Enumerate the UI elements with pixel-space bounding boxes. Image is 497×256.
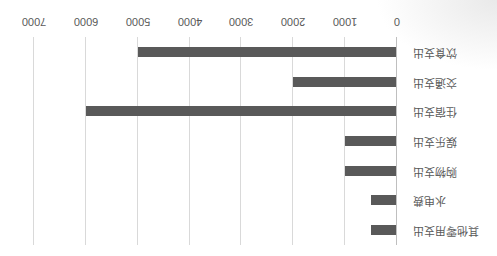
x-tick-label: 2000 <box>273 16 313 28</box>
gridline <box>189 37 190 245</box>
category-label: 交通支出 <box>413 76 457 88</box>
gridline <box>85 37 86 245</box>
x-tick-label: 5000 <box>118 16 158 28</box>
category-label: 娱乐支出 <box>413 135 457 147</box>
bar <box>345 136 397 146</box>
bar <box>86 106 397 116</box>
gridline <box>240 37 241 245</box>
bar <box>293 77 397 87</box>
bar <box>138 47 397 57</box>
x-tick-label: 0 <box>377 16 417 28</box>
x-tick-label: 1000 <box>325 16 365 28</box>
category-label: 水电费 <box>413 194 446 206</box>
x-tick-label: 6000 <box>66 16 106 28</box>
gridline <box>137 37 138 245</box>
bar <box>371 225 397 235</box>
gridline <box>33 37 34 245</box>
x-tick-label: 4000 <box>170 16 210 28</box>
x-tick-label: 7000 <box>14 16 54 28</box>
chart-image: 01000200030004000500060007000 其他零用支出水电费购… <box>0 0 497 256</box>
category-label: 住宿支出 <box>413 105 457 117</box>
horizontal-bar-chart: 01000200030004000500060007000 其他零用支出水电费购… <box>0 0 497 256</box>
category-label: 购物支出 <box>413 165 457 177</box>
bar <box>371 195 397 205</box>
x-tick-label: 3000 <box>221 16 261 28</box>
bar <box>345 166 397 176</box>
gridline <box>292 37 293 245</box>
category-label: 饮食支出 <box>413 46 457 58</box>
y-axis-line <box>396 37 397 245</box>
category-label: 其他零用支出 <box>413 224 479 236</box>
